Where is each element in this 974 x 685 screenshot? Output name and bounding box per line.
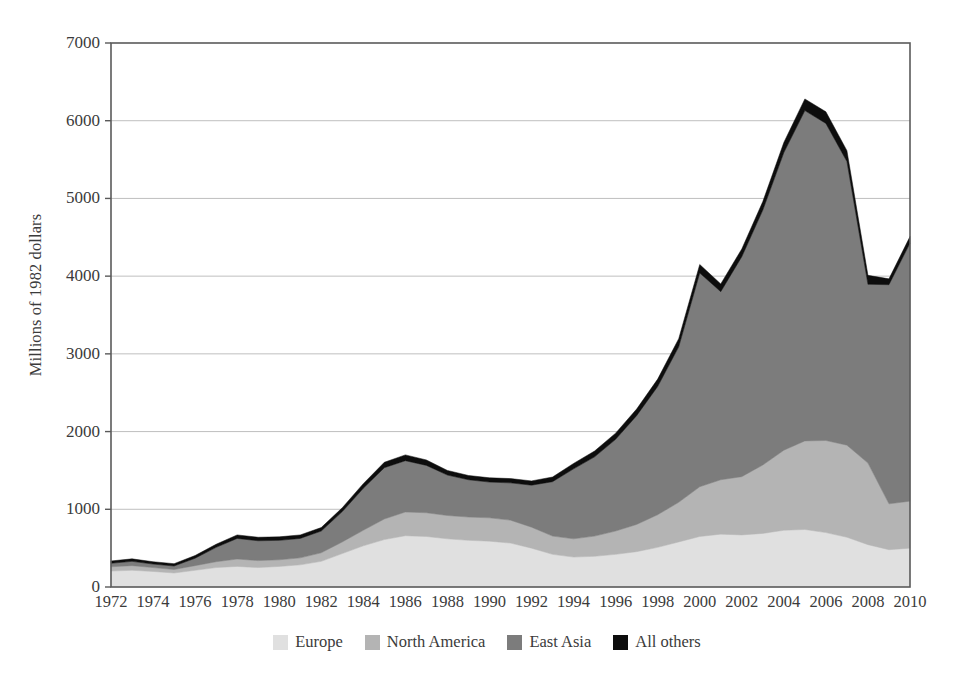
x-tick-label: 1986 bbox=[389, 592, 422, 612]
chart-legend: EuropeNorth AmericaEast AsiaAll others bbox=[0, 632, 974, 652]
y-tick-label: 3000 bbox=[66, 344, 100, 364]
x-axis-tick-labels: 1972197419761978198019821984198619881990… bbox=[0, 592, 974, 616]
x-tick-label: 1984 bbox=[347, 592, 380, 612]
y-tick-label: 4000 bbox=[66, 266, 100, 286]
legend-swatch-icon bbox=[365, 635, 380, 650]
x-tick-label: 1978 bbox=[221, 592, 254, 612]
legend-item-europe[interactable]: Europe bbox=[273, 632, 343, 652]
y-tick-label: 6000 bbox=[66, 111, 100, 131]
legend-swatch-icon bbox=[273, 635, 288, 650]
x-tick-label: 1972 bbox=[95, 592, 128, 612]
x-tick-label: 1976 bbox=[179, 592, 212, 612]
x-tick-label: 2002 bbox=[725, 592, 758, 612]
legend-swatch-icon bbox=[613, 635, 628, 650]
x-tick-label: 2010 bbox=[894, 592, 927, 612]
x-tick-label: 1982 bbox=[305, 592, 338, 612]
x-tick-label: 1980 bbox=[263, 592, 296, 612]
x-tick-label: 2006 bbox=[809, 592, 842, 612]
legend-item-label: Europe bbox=[295, 632, 343, 652]
x-tick-label: 2004 bbox=[767, 592, 800, 612]
y-tick-label: 1000 bbox=[66, 499, 100, 519]
x-tick-label: 1988 bbox=[431, 592, 464, 612]
y-tick-label: 2000 bbox=[66, 422, 100, 442]
y-tick-label: 5000 bbox=[66, 188, 100, 208]
x-tick-label: 2008 bbox=[851, 592, 884, 612]
x-tick-label: 2000 bbox=[683, 592, 716, 612]
x-tick-label: 1992 bbox=[515, 592, 548, 612]
legend-item-label: All others bbox=[635, 632, 701, 652]
legend-item-label: North America bbox=[387, 632, 486, 652]
x-tick-label: 1996 bbox=[599, 592, 632, 612]
stacked-area-chart-figure: Millions of 1982 dollars 010002000300040… bbox=[0, 0, 974, 685]
legend-item-north-america[interactable]: North America bbox=[365, 632, 486, 652]
x-tick-label: 1998 bbox=[641, 592, 674, 612]
legend-item-east-asia[interactable]: East Asia bbox=[507, 632, 591, 652]
y-axis-tick-labels: 01000200030004000500060007000 bbox=[0, 0, 974, 685]
legend-swatch-icon bbox=[507, 635, 522, 650]
x-tick-label: 1994 bbox=[557, 592, 590, 612]
y-tick-label: 7000 bbox=[66, 33, 100, 53]
x-tick-label: 1974 bbox=[137, 592, 170, 612]
x-tick-label: 1990 bbox=[473, 592, 506, 612]
legend-item-label: East Asia bbox=[529, 632, 591, 652]
legend-item-all-others[interactable]: All others bbox=[613, 632, 701, 652]
